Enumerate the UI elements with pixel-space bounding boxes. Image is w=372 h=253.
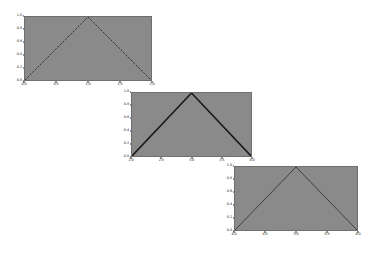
ytick-label: 0.4 [124,129,129,132]
xtick-label: 2.0 [128,159,133,162]
xtick-label: 6.0 [355,233,360,236]
plot-area-3 [234,166,358,231]
xtick-label: 1.0 [85,83,90,86]
xtick-label: 4.0 [249,159,254,162]
ytick-mark [233,205,235,206]
xtick-label: 0.5 [53,83,58,86]
xtick-label: 2.0 [149,83,154,86]
ytick-label: 0.6 [17,40,22,43]
line-series-2 [132,93,251,156]
xtick-label: 0.0 [21,83,26,86]
ytick-mark [130,92,132,93]
ytick-mark [23,68,25,69]
xtick-label: 3.0 [189,159,194,162]
ytick-label: 0.6 [124,116,129,119]
ytick-mark [130,144,132,145]
ytick-mark [23,16,25,17]
ytick-mark [233,192,235,193]
xtick-mark [234,231,235,233]
ytick-mark [233,179,235,180]
ytick-label: 1.0 [17,14,22,17]
axes-panel-2[interactable]: 0.00.20.40.60.81.02.02.53.03.54.0 [131,92,252,157]
xtick-mark [56,81,57,83]
xtick-mark [24,81,25,83]
ytick-label: 0.6 [227,190,232,193]
plot-area-2 [131,92,252,157]
ytick-label: 0.8 [227,177,232,180]
xtick-mark [120,81,121,83]
xtick-mark [252,157,253,159]
xtick-mark [265,231,266,233]
xtick-mark [327,231,328,233]
xtick-mark [88,81,89,83]
ytick-label: 0.2 [227,216,232,219]
ytick-mark [23,55,25,56]
xtick-mark [161,157,162,159]
xtick-label: 3.5 [219,159,224,162]
ytick-mark [130,118,132,119]
ytick-label: 0.8 [124,103,129,106]
figure-canvas: 0.00.20.40.60.81.00.00.51.01.52.0 0.00.2… [0,0,372,253]
xtick-label: 5.0 [293,233,298,236]
ytick-mark [23,42,25,43]
ytick-label: 0.4 [17,53,22,56]
ytick-mark [233,218,235,219]
ytick-label: 1.0 [227,164,232,167]
axes-panel-1[interactable]: 0.00.20.40.60.81.00.00.51.01.52.0 [24,16,152,81]
xtick-label: 4.5 [262,233,267,236]
ytick-label: 0.4 [227,203,232,206]
line-series-3 [235,167,357,230]
ytick-mark [130,131,132,132]
line-series-1 [25,17,151,80]
xtick-mark [191,157,192,159]
axes-panel-3[interactable]: 0.00.20.40.60.81.04.04.55.05.56.0 [234,166,358,231]
xtick-mark [131,157,132,159]
ytick-mark [23,29,25,30]
xtick-label: 2.5 [159,159,164,162]
xtick-mark [296,231,297,233]
ytick-mark [130,105,132,106]
ytick-label: 1.0 [124,90,129,93]
xtick-label: 1.5 [117,83,122,86]
ytick-mark [233,166,235,167]
xtick-mark [221,157,222,159]
ytick-label: 0.8 [17,27,22,30]
xtick-mark [358,231,359,233]
xtick-label: 4.0 [231,233,236,236]
xtick-mark [152,81,153,83]
ytick-label: 0.2 [124,142,129,145]
xtick-label: 5.5 [324,233,329,236]
plot-area-1 [24,16,152,81]
ytick-label: 0.2 [17,66,22,69]
